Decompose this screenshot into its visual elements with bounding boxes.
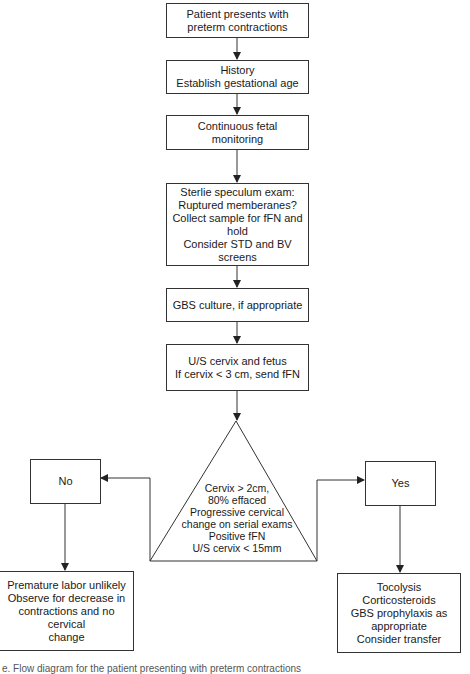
step-history: History Establish gestational age — [166, 60, 309, 94]
step-history-text: History Establish gestational age — [176, 64, 298, 90]
outcome-no-text: Premature labor unlikely Observe for dec… — [4, 579, 129, 644]
step-ultrasound: U/S cervix and fetus If cervix < 3 cm, s… — [166, 344, 309, 391]
step-speculum-exam: Sterlie speculum exam: Ruptured memberan… — [166, 183, 309, 266]
step-monitoring-text: Continuous fetal monitoring — [171, 120, 304, 146]
step-gbs-text: GBS culture, if appropriate — [173, 299, 303, 312]
outcome-no: Premature labor unlikely Observe for dec… — [0, 571, 134, 651]
outcome-yes-text: Tocolysis Corticosteroids GBS prophylaxi… — [351, 581, 448, 646]
figure-caption: e. Flow diagram for the patient presenti… — [2, 663, 301, 674]
branch-yes-label: Yes — [392, 477, 410, 490]
arrow-decision-yes — [317, 480, 364, 561]
step-presentation: Patient presents with preterm contractio… — [166, 3, 309, 38]
step-monitoring: Continuous fetal monitoring — [166, 115, 309, 150]
step-gbs-culture: GBS culture, if appropriate — [166, 288, 309, 322]
step-ultrasound-text: U/S cervix and fetus If cervix < 3 cm, s… — [175, 355, 300, 381]
step-presentation-text: Patient presents with preterm contractio… — [186, 8, 288, 34]
step-speculum-text: Sterlie speculum exam: Ruptured memberan… — [172, 186, 302, 264]
branch-yes: Yes — [365, 461, 436, 506]
branch-no: No — [30, 459, 101, 504]
decision-criteria-text: Cervix > 2cm, 80% effaced Progressive ce… — [170, 482, 304, 554]
branch-no-label: No — [58, 475, 72, 488]
arrow-decision-no — [101, 478, 150, 561]
outcome-yes: Tocolysis Corticosteroids GBS prophylaxi… — [337, 573, 461, 653]
